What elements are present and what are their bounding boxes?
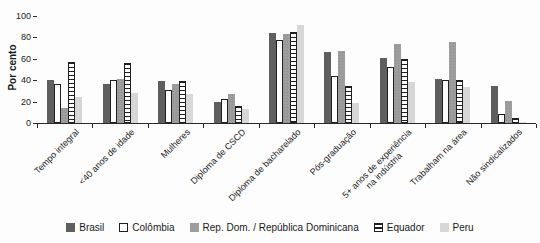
bar-rep-dom-repu-blica-dominicana-tempo-integral	[61, 108, 68, 123]
bar-equador-na-o-sindicalizados	[512, 118, 519, 123]
legend-item-brasil: Brasil	[66, 222, 104, 233]
bar-brasil-diploma-de-cscd	[214, 102, 221, 123]
y-tick-label: 20	[1, 97, 31, 107]
legend-item-rep-dom-repu-blica-dominicana: Rep. Dom. / República Dominicana	[190, 222, 359, 233]
x-category-label: Mulheres	[158, 127, 191, 160]
x-category-label: Tempo integral	[32, 127, 81, 176]
x-tick-mark	[259, 124, 260, 128]
legend-swatch-rep-dom-repu-blica-dominicana	[190, 223, 199, 232]
bar-brasil-5-anos-de-experie-ncia	[380, 58, 387, 123]
bar-colo-mbia-na-o-sindicalizados	[498, 114, 505, 123]
y-tick-mark	[33, 37, 37, 38]
bar-brasil-trabalham-na-a-rea	[435, 79, 442, 123]
y-tick-mark	[33, 59, 37, 60]
x-tick-mark	[481, 124, 482, 128]
x-tick-mark	[314, 124, 315, 128]
bar-rep-dom-repu-blica-dominicana-diploma-de-bacharelado	[283, 34, 290, 123]
bar-peru-diploma-de-bacharelado	[297, 25, 304, 123]
bar-equador-5-anos-de-experie-ncia	[401, 59, 408, 123]
legend: BrasilColômbiaRep. Dom. / República Domi…	[0, 222, 540, 233]
bar-colo-mbia-40-anos-de-idade	[110, 80, 117, 123]
bar-peru-diploma-de-cscd	[242, 109, 249, 123]
legend-swatch-peru	[440, 223, 449, 232]
bar-brasil-mulheres	[158, 81, 165, 123]
x-tick-mark	[425, 124, 426, 128]
bar-rep-dom-repu-blica-dominicana-po-s-graduac-a-o	[338, 51, 345, 123]
bar-peru-5-anos-de-experie-ncia	[408, 82, 415, 123]
bar-colo-mbia-tempo-integral	[54, 84, 61, 123]
bar-brasil-po-s-graduac-a-o	[324, 52, 331, 123]
bar-colo-mbia-po-s-graduac-a-o	[331, 76, 338, 123]
bar-peru-mulheres	[186, 94, 193, 123]
x-category-label: <40 anos de idade	[77, 127, 137, 187]
legend-item-colo-mbia: Colômbia	[119, 222, 174, 233]
x-category-label: Não sindicalizados	[464, 127, 524, 187]
bar-rep-dom-repu-blica-dominicana-diploma-de-cscd	[228, 94, 235, 123]
bar-equador-po-s-graduac-a-o	[345, 86, 352, 123]
bar-brasil-tempo-integral	[47, 80, 54, 123]
x-tick-mark	[37, 124, 38, 128]
y-tick-label: 80	[1, 32, 31, 42]
legend-label: Equador	[387, 222, 425, 233]
legend-label: Rep. Dom. / República Dominicana	[203, 222, 359, 233]
bar-colo-mbia-diploma-de-bacharelado	[276, 40, 283, 123]
bar-peru-po-s-graduac-a-o	[352, 103, 359, 123]
bar-peru-na-o-sindicalizados	[519, 122, 526, 123]
x-category-label: Diploma de CSCD	[188, 127, 247, 186]
x-tick-mark	[92, 124, 93, 128]
legend-label: Colômbia	[132, 222, 174, 233]
x-tick-mark	[370, 124, 371, 128]
x-tick-mark	[148, 124, 149, 128]
bar-equador-mulheres	[179, 81, 186, 123]
legend-swatch-brasil	[66, 223, 75, 232]
y-tick-mark	[33, 16, 37, 17]
bar-rep-dom-repu-blica-dominicana-5-anos-de-experie-ncia	[394, 44, 401, 123]
y-tick-label: 100	[1, 11, 31, 21]
y-tick-mark	[33, 102, 37, 103]
x-category-label: Trabalham na área	[408, 127, 469, 188]
bar-peru-trabalham-na-a-rea	[463, 87, 470, 123]
bar-brasil-na-o-sindicalizados	[491, 86, 498, 123]
bar-rep-dom-repu-blica-dominicana-na-o-sindicalizados	[505, 101, 512, 123]
legend-label: Peru	[453, 222, 474, 233]
x-tick-mark	[536, 124, 537, 128]
bar-brasil-40-anos-de-idade	[103, 84, 110, 123]
legend-item-peru: Peru	[440, 222, 474, 233]
bar-equador-diploma-de-cscd	[235, 106, 242, 123]
bar-peru-40-anos-de-idade	[131, 93, 138, 123]
bar-equador-40-anos-de-idade	[124, 63, 131, 123]
bar-rep-dom-repu-blica-dominicana-mulheres	[172, 84, 179, 123]
bar-colo-mbia-5-anos-de-experie-ncia	[387, 67, 394, 123]
x-tick-mark	[203, 124, 204, 128]
y-tick-label: 0	[1, 118, 31, 128]
bar-peru-tempo-integral	[75, 97, 82, 123]
bar-brasil-diploma-de-bacharelado	[269, 33, 276, 123]
y-tick-label: 60	[1, 54, 31, 64]
x-axis-line	[37, 123, 536, 124]
bar-equador-trabalham-na-a-rea	[456, 80, 463, 123]
legend-item-equador: Equador	[374, 222, 425, 233]
bar-rep-dom-repu-blica-dominicana-40-anos-de-idade	[117, 79, 124, 123]
bar-rep-dom-repu-blica-dominicana-trabalham-na-a-rea	[449, 42, 456, 123]
bar-equador-tempo-integral	[68, 62, 75, 123]
y-tick-mark	[33, 80, 37, 81]
legend-label: Brasil	[79, 222, 104, 233]
legend-swatch-equador	[374, 223, 383, 232]
bar-colo-mbia-mulheres	[165, 90, 172, 123]
x-category-label: Pós-graduação	[308, 127, 358, 177]
bar-chart: Por cento BrasilColômbiaRep. Dom. / Repú…	[0, 0, 540, 243]
bar-colo-mbia-diploma-de-cscd	[221, 99, 228, 123]
bar-equador-diploma-de-bacharelado	[290, 32, 297, 123]
legend-swatch-colo-mbia	[119, 223, 128, 232]
y-tick-label: 40	[1, 75, 31, 85]
bar-colo-mbia-trabalham-na-a-rea	[442, 80, 449, 123]
